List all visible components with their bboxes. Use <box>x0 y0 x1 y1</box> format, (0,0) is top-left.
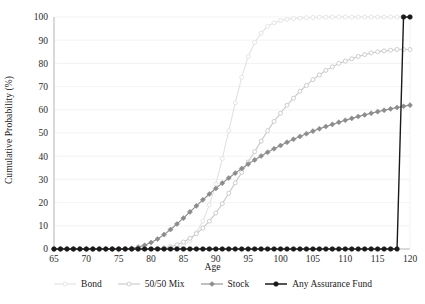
y-tick-label: 0 <box>43 244 48 254</box>
y-tick-label: 80 <box>39 59 49 69</box>
legend-label: Any Assurance Fund <box>292 279 372 289</box>
legend-swatch-icon <box>200 279 224 289</box>
y-tick-label: 20 <box>39 198 49 208</box>
legend-item-any-assurance-fund[interactable]: Any Assurance Fund <box>264 279 372 289</box>
y-tick-label: 90 <box>39 36 49 46</box>
legend-label: Bond <box>81 279 102 289</box>
chart-container: Cumulative Probability (%) 0102030405060… <box>0 0 425 304</box>
x-axis-title: Age <box>0 262 425 272</box>
legend-item-bond[interactable]: Bond <box>53 279 102 289</box>
legend-label: 50/50 Mix <box>145 279 185 289</box>
y-tick-label: 30 <box>39 175 49 185</box>
y-tick-label: 50 <box>39 128 49 138</box>
legend-label: Stock <box>228 279 250 289</box>
chart-legend: Bond50/50 MixStockAny Assurance Fund <box>0 279 425 289</box>
legend-swatch-icon <box>264 279 288 289</box>
y-tick-label: 10 <box>39 221 49 231</box>
y-tick-label: 70 <box>39 82 49 92</box>
series-stock <box>51 103 412 252</box>
y-tick-labels-group: 0102030405060708090100 <box>34 12 49 254</box>
legend-item-50-50-mix[interactable]: 50/50 Mix <box>117 279 185 289</box>
y-tick-label: 100 <box>34 12 49 22</box>
legend-swatch-icon <box>117 279 141 289</box>
legend-swatch-icon <box>53 279 77 289</box>
y-tick-label: 60 <box>39 105 49 115</box>
legend-item-stock[interactable]: Stock <box>200 279 250 289</box>
series-50-50-mix <box>52 47 412 251</box>
plot-area: 0102030405060708090100 65707580859095100… <box>0 0 425 304</box>
gridlines-group <box>54 17 410 226</box>
y-tick-label: 40 <box>39 152 49 162</box>
